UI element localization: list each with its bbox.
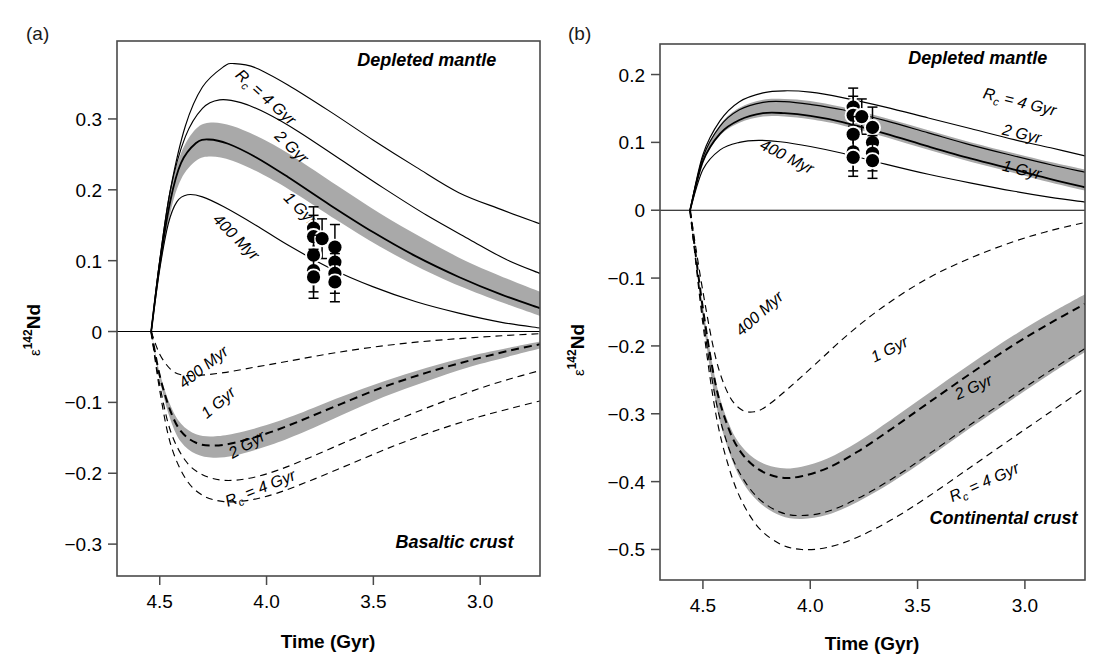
- figure-root: Rc = 4 Gyr2 Gyr1 Gyr400 Myr400 Myr1 Gyr2…: [0, 0, 1108, 669]
- y-tick-label: 0.3: [76, 109, 102, 130]
- x-tick-label: 4.0: [253, 591, 279, 612]
- label-rest: = 4 Gyr: [962, 459, 1022, 498]
- curve-basaltic-crust-1-gyr: [151, 332, 540, 446]
- region-label-depleted-mantle: Depleted mantle: [357, 50, 496, 70]
- curve-label-continental-crust-400-myr: 400 Myr: [732, 287, 787, 339]
- curve-label-depleted-mantle-rc-4-gyr: Rc = 4 Gyr: [231, 66, 300, 131]
- curve-depleted-mantle-1-gyr: [151, 139, 540, 331]
- marker-dot: [315, 232, 328, 245]
- plot-area: Rc = 4 Gyr2 Gyr1 Gyr400 Myr400 Myr1 Gyr2…: [660, 85, 1085, 550]
- x-tick-label: 4.5: [147, 591, 173, 612]
- x-tick-label: 4.0: [797, 595, 823, 616]
- y-tick-label: −0.3: [64, 534, 102, 555]
- curve-label-depleted-mantle-400-myr: 400 Myr: [757, 136, 817, 178]
- curve-label-depleted-mantle-2-gyr: 2 Gyr: [1000, 121, 1044, 147]
- x-tick-label: 3.5: [360, 591, 386, 612]
- panel-letter: (a): [26, 23, 49, 44]
- label-rest: = 4 Gyr: [238, 466, 298, 503]
- two-panel-isotope-figure: Rc = 4 Gyr2 Gyr1 Gyr400 Myr400 Myr1 Gyr2…: [0, 0, 1108, 669]
- y-tick-label: −0.1: [607, 268, 645, 289]
- y-tick-label: −0.2: [607, 336, 645, 357]
- x-tick-label: 3.0: [1012, 595, 1038, 616]
- y-tick-label: 0.2: [619, 65, 645, 86]
- superscript-142: 142: [565, 349, 579, 369]
- panel-letter: (b): [568, 23, 591, 44]
- y-tick-label: −0.3: [607, 404, 645, 425]
- region-label-continental-crust: Continental crust: [929, 508, 1078, 528]
- y-axis-title: ε142Nd: [565, 324, 588, 376]
- curve-label-depleted-mantle-rc-4-gyr: Rc = 4 Gyr: [981, 85, 1059, 123]
- superscript-142: 142: [21, 329, 35, 349]
- x-tick-label: 3.5: [904, 595, 930, 616]
- y-tick-label: 0.1: [76, 251, 102, 272]
- y-tick-label: −0.5: [607, 539, 645, 560]
- marker-dot: [866, 154, 879, 167]
- y-axis-title: ε142Nd: [21, 304, 44, 356]
- x-axis-title: Time (Gyr): [825, 633, 920, 654]
- y-tick-label: 0: [634, 200, 645, 221]
- y-tick-label: 0.2: [76, 180, 102, 201]
- panel-b: Rc = 4 Gyr2 Gyr1 Gyr400 Myr400 Myr1 Gyr2…: [565, 23, 1085, 654]
- y-tick-label: 0.1: [619, 132, 645, 153]
- band-continental-crust: [690, 210, 1085, 519]
- y-tick-label: −0.1: [64, 392, 102, 413]
- curve-label-basaltic-crust-400-myr: 400 Myr: [175, 342, 232, 391]
- nd-symbol: Nd: [23, 304, 44, 329]
- marker-dot: [328, 275, 341, 288]
- x-axis-title: Time (Gyr): [281, 631, 376, 652]
- data-point: [845, 138, 862, 176]
- band-depleted-mantle: [151, 122, 540, 331]
- panel-a: Rc = 4 Gyr2 Gyr1 Gyr400 Myr400 Myr1 Gyr2…: [21, 23, 540, 652]
- curve-label-basaltic-crust-1-gyr: 1 Gyr: [198, 383, 239, 422]
- plot-frame: [117, 41, 540, 576]
- region-label-basaltic-crust: Basaltic crust: [396, 532, 515, 552]
- data-point: [305, 256, 322, 299]
- x-tick-label: 4.5: [690, 595, 716, 616]
- region-label-depleted-mantle: Depleted mantle: [908, 48, 1047, 68]
- y-tick-label: −0.2: [64, 463, 102, 484]
- curve-label-continental-crust-1-gyr: 1 Gyr: [868, 333, 911, 366]
- marker-dot: [307, 270, 320, 283]
- nd-symbol: Nd: [567, 324, 588, 349]
- data-point-group: [305, 207, 343, 302]
- label-rest: = 4 Gyr: [998, 89, 1058, 120]
- plot-area: Rc = 4 Gyr2 Gyr1 Gyr400 Myr400 Myr1 Gyr2…: [117, 63, 540, 512]
- y-tick-label: 0: [91, 322, 102, 343]
- label-rest: = 4 Gyr: [245, 77, 299, 128]
- curve-label-depleted-mantle-400-myr: 400 Myr: [210, 210, 263, 263]
- x-tick-label: 3.0: [467, 591, 493, 612]
- y-tick-label: −0.4: [607, 472, 645, 493]
- marker-dot: [847, 151, 860, 164]
- curve-label-continental-crust-rc-4-gyr: Rc = 4 Gyr: [947, 459, 1024, 508]
